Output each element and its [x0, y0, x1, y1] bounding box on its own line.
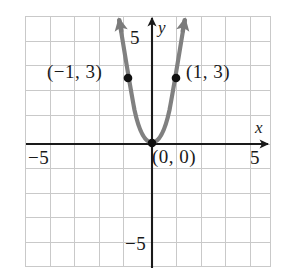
parabola-right-arrowhead: [183, 19, 186, 32]
point-1-3: [172, 74, 181, 83]
x-axis-tick-label-negative-5: −5: [28, 148, 49, 167]
y-axis-tick-label-5: 5: [130, 28, 140, 47]
parabola-left-arrowhead: [119, 19, 122, 32]
point-label-0-0: (0, 0): [152, 147, 196, 166]
point-neg1-3: [124, 74, 133, 83]
point-label-1-3: (1, 3): [186, 62, 230, 81]
x-axis-name-label: x: [255, 119, 263, 136]
y-axis-tick-label-negative-5: −5: [125, 234, 146, 253]
point-label-neg1-3: (−1, 3): [47, 62, 102, 81]
graph-figure: (−1, 3) (1, 3) (0, 0) 5 −5 −5 5 y x: [0, 0, 286, 277]
x-axis-tick-label-5: 5: [250, 148, 260, 167]
y-axis-name-label: y: [158, 19, 166, 36]
